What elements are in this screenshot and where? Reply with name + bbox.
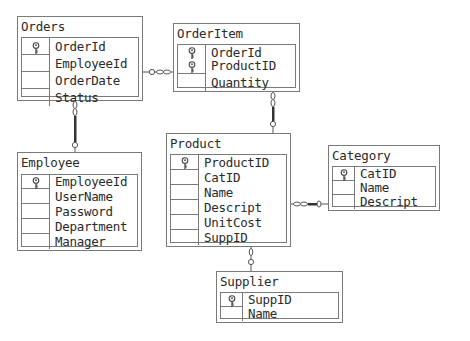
relationship-orders-orderitem[interactable]	[143, 69, 173, 74]
one-end-icon	[248, 259, 253, 264]
infinity-link-icon	[271, 100, 275, 107]
relationship-lines	[0, 0, 470, 341]
one-end-icon	[270, 121, 275, 126]
infinity-link-icon	[73, 109, 77, 116]
relationship-supplier-product[interactable]	[248, 247, 253, 271]
infinity-link-icon	[164, 70, 171, 74]
one-end-icon	[72, 142, 77, 147]
infinity-link-icon	[271, 93, 275, 100]
relationship-category-product[interactable]	[291, 201, 328, 207]
relationship-employee-orders[interactable]	[72, 101, 77, 152]
one-end-icon	[317, 201, 321, 207]
infinity-link-icon	[294, 202, 301, 206]
infinity-link-icon	[249, 249, 253, 256]
infinity-link-icon	[73, 102, 77, 109]
infinity-link-icon	[157, 70, 164, 74]
infinity-link-icon	[301, 202, 308, 206]
relationship-product-orderitem[interactable]	[270, 92, 275, 133]
one-end-icon	[149, 69, 154, 74]
